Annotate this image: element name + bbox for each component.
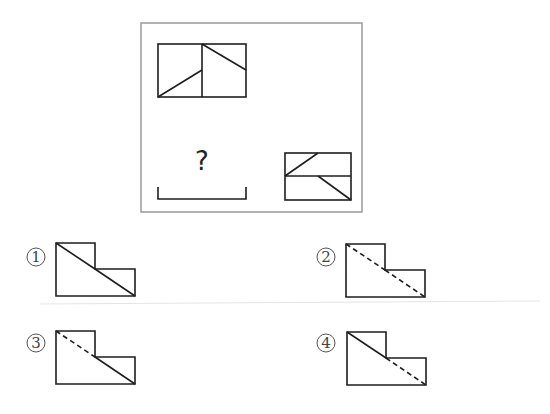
option-number-label: 2 [321, 248, 331, 266]
option-2[interactable]: 2 [317, 244, 425, 297]
option-number-label: 1 [31, 248, 41, 266]
diagonal-lower-dashed [385, 270, 425, 297]
diagonal-upper-solid [56, 243, 95, 269]
diagonal-lower-solid [95, 269, 135, 296]
option-number-label: 3 [31, 334, 41, 352]
answer-options: 1234 [27, 243, 426, 385]
option-number-label: 4 [321, 334, 331, 352]
option-1[interactable]: 1 [27, 243, 135, 296]
front-view-figure [158, 44, 246, 97]
diagonal-upper-dashed [346, 244, 385, 270]
question-mark: ? [195, 146, 209, 176]
option-3[interactable]: 3 [27, 331, 135, 384]
unknown-view: ? [158, 146, 246, 199]
diagonal-upper-solid [347, 332, 386, 358]
question-panel: ? [141, 23, 362, 212]
separator-line [40, 301, 540, 304]
diagonal-upper-dashed [56, 331, 95, 357]
puzzle-canvas: ? 1234 [0, 0, 550, 414]
diagonal-lower-dashed [386, 358, 426, 385]
answer-bracket [158, 187, 246, 199]
diagonal-lower-solid [95, 357, 135, 384]
option-4[interactable]: 4 [317, 332, 426, 385]
side-view-figure [285, 153, 351, 200]
